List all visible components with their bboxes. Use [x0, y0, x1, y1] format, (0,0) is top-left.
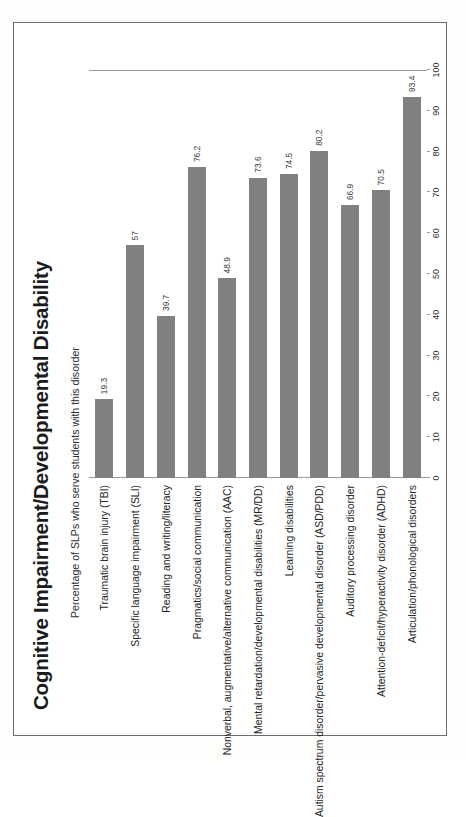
category-label: Reading and writing/literacy [160, 485, 171, 613]
bar [157, 316, 175, 478]
bar-value-label: 74.5 [284, 153, 294, 169]
category-label: Traumatic brain injury (TBI) [99, 485, 110, 610]
value-axis-tick-mark [427, 436, 430, 437]
value-axis-tick-mark [427, 110, 430, 111]
value-axis-tick-label: 90 [431, 106, 441, 116]
category-label: Attention-deficit/hyperactivity disorder… [375, 485, 386, 697]
bar-value-label: 80.2 [314, 129, 324, 145]
bar [372, 190, 390, 478]
value-axis-tick-label: 30 [431, 351, 441, 361]
value-axis-tick-label: 10 [431, 432, 441, 442]
value-axis-tick-label: 60 [431, 228, 441, 238]
bar-value-label: 70.5 [376, 169, 386, 185]
bar-row: 66.9Auditory processing disorder [341, 70, 359, 478]
value-axis-tick-label: 50 [431, 269, 441, 279]
bar-row: 39.7Reading and writing/literacy [157, 70, 175, 478]
value-axis-tick-label: 70 [431, 187, 441, 197]
bar [188, 167, 206, 478]
value-axis-tick-mark [427, 314, 430, 315]
plot-area: 19.3Traumatic brain injury (TBI)57Specif… [89, 70, 427, 478]
bar-row: 76.2Pragmatics/social communication [188, 70, 206, 478]
bar [310, 151, 328, 478]
category-label: Articulation/phonological disorders [406, 485, 417, 643]
bar-value-label: 39.7 [161, 295, 171, 311]
category-label: Auditory processing disorder [345, 485, 356, 617]
value-axis-tick-label: 20 [431, 391, 441, 401]
bar-value-label: 73.6 [253, 156, 263, 172]
bar [126, 245, 144, 478]
bar-row: 80.2Autism spectrum disorder/pervasive d… [310, 70, 328, 478]
bar-row: 73.6Mental retardation/developmental dis… [249, 70, 267, 478]
bar-row: 19.3Traumatic brain injury (TBI) [95, 70, 113, 478]
chart-title: Cognitive Impairment/Developmental Disab… [29, 22, 53, 736]
category-label: Autism spectrum disorder/pervasive devel… [314, 485, 325, 817]
bar-value-label: 57 [130, 231, 140, 240]
bar-value-label: 48.9 [222, 257, 232, 273]
category-label: Learning disabilities [283, 485, 294, 576]
bar-value-label: 19.3 [99, 378, 109, 394]
bar [249, 178, 267, 478]
rotated-chart-stage: Cognitive Impairment/Developmental Disab… [13, 22, 447, 736]
bar-chart: Cognitive Impairment/Developmental Disab… [13, 22, 447, 736]
value-axis-tick-mark [427, 477, 430, 478]
bar [341, 205, 359, 478]
bar-value-label: 76.2 [192, 146, 202, 162]
category-label: Mental retardation/developmental disabil… [253, 485, 264, 734]
bar [280, 174, 298, 478]
bar-value-label: 93.4 [407, 76, 417, 92]
bar-row: 48.9Nonverbal, augmentative/alternative … [218, 70, 236, 478]
value-axis-tick-mark [427, 395, 430, 396]
value-axis-tick-mark [427, 191, 430, 192]
bar [218, 279, 236, 479]
value-axis-title: Percentage of SLPs who serve students wi… [69, 347, 81, 618]
bar-row: 57Specific language impairment (SLI) [126, 70, 144, 478]
value-axis-tick-label: 0 [431, 475, 441, 480]
value-axis-tick-mark [427, 69, 430, 70]
bar [403, 97, 421, 478]
bar-row: 93.4Articulation/phonological disorders [403, 70, 421, 478]
value-axis-tick-mark [427, 151, 430, 152]
bar-row: 74.5Learning disabilities [280, 70, 298, 478]
bar-row: 70.5Attention-deficit/hyperactivity diso… [372, 70, 390, 478]
value-axis-tick-mark [427, 355, 430, 356]
value-axis-tick-label: 80 [431, 147, 441, 157]
value-axis-tick-mark [427, 232, 430, 233]
value-axis-tick-label: 100 [431, 62, 441, 77]
category-label: Nonverbal, augmentative/alternative comm… [222, 485, 233, 755]
category-label: Specific language impairment (SLI) [130, 485, 141, 647]
category-label: Pragmatics/social communication [191, 485, 202, 639]
bar [95, 399, 113, 478]
bar-value-label: 66.9 [345, 184, 355, 200]
value-axis-tick-mark [427, 273, 430, 274]
value-axis-tick-label: 40 [431, 310, 441, 320]
